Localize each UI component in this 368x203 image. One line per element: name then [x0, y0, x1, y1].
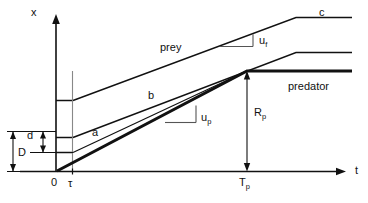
tick-label-Tp-base: T — [239, 176, 246, 188]
origin-label: 0 — [51, 177, 57, 188]
x-axis — [20, 168, 346, 176]
label-Rp: Rp — [254, 107, 266, 118]
label-D: D — [18, 147, 26, 158]
tick-label-tau: τ — [68, 178, 72, 189]
tick-label-Tp: Tp — [239, 177, 250, 188]
label-d: d — [27, 130, 33, 141]
label-Rp-sub: p — [262, 112, 266, 121]
slope-triangle-up — [165, 106, 196, 123]
figure-canvas: x t 0 τ Tp prey predator c b a uf up Rp … — [0, 0, 368, 203]
label-uf-sub: f — [265, 40, 267, 49]
label-uf: uf — [259, 35, 267, 46]
x-axis-label: t — [355, 165, 358, 176]
label-Rp-base: R — [254, 106, 262, 118]
label-curve-a: a — [92, 127, 98, 138]
label-curve-c: c — [319, 7, 325, 18]
y-axis — [52, 14, 60, 172]
y-axis-label: x — [31, 7, 37, 18]
label-curve-b: b — [148, 90, 154, 101]
tick-label-Tp-sub: p — [246, 182, 250, 191]
initial-offset-segments — [56, 101, 73, 153]
label-prey: prey — [160, 42, 181, 53]
measure-Rp — [244, 71, 250, 172]
measure-d — [30, 132, 73, 153]
curve-b — [73, 53, 352, 138]
label-up-sub: p — [207, 117, 211, 126]
label-predator: predator — [288, 81, 329, 92]
diagram-svg — [0, 0, 368, 203]
label-up: up — [201, 112, 211, 123]
